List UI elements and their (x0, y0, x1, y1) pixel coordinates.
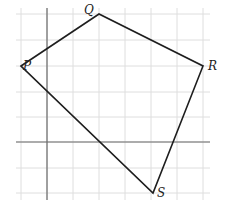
quadrilateral-pqrs (21, 14, 203, 193)
quadrilateral-diagram: PQRS (0, 0, 230, 209)
vertex-labels: PQRS (22, 3, 217, 200)
vertex-label-s: S (157, 186, 165, 200)
diagram-canvas: PQRS (0, 0, 230, 209)
vertex-label-p: P (22, 59, 32, 73)
vertex-label-q: Q (84, 3, 94, 17)
vertex-label-r: R (207, 59, 217, 73)
grid-lines (16, 8, 210, 200)
